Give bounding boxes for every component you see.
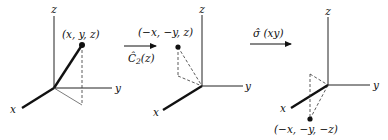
x-axis [163,86,202,110]
operation-c2z: Ĉ2(z) [124,46,156,66]
y-axis-label: y [244,80,252,92]
point-marker [79,42,85,48]
projection-dashed-base [310,74,328,85]
sigma-xy-label: σ̂ (xy) [253,27,284,39]
panel-after-c2z: z y x (−x, −y, z) [138,3,252,118]
x-axis-label: x [10,103,16,115]
projection-dashed-vector [178,47,202,86]
projection-dashed-base [178,76,202,86]
x-axis [22,88,54,108]
x-axis-label: x [153,106,159,118]
x-axis [291,85,328,108]
position-vector [54,45,82,88]
c2z-label: Ĉ2(z) [128,51,155,66]
y-axis-label: y [114,82,122,94]
point-label: (−x, −y, −z) [274,123,338,135]
point-marker [175,44,180,49]
panel-original: z y x (x, y, z) [10,3,122,115]
point-marker [307,116,312,121]
point-label: (−x, −y, z) [138,26,193,38]
z-axis-label: z [324,5,331,17]
x-axis-label: x [280,102,286,114]
z-axis-label: z [50,3,57,15]
point-label: (x, y, z) [62,28,100,40]
operation-sigma-xy: σ̂ (xy) [250,27,291,44]
z-axis-label: z [198,3,205,15]
panel-after-sigma-xy: z y x (−x, −y, −z) [274,5,380,135]
symmetry-operations-diagram: z y x (x, y, z) Ĉ2(z) z y x (−x, −y, z) … [0,0,388,140]
y-axis-label: y [372,79,380,91]
projection-base-line [54,88,82,105]
